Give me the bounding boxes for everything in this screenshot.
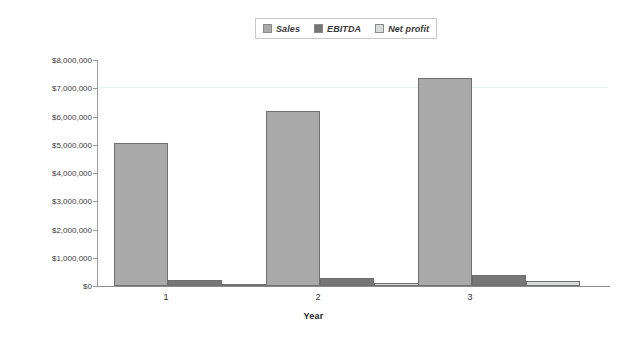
x-axis-title: Year bbox=[0, 311, 627, 321]
x-axis-tick-label: 1 bbox=[163, 292, 168, 302]
y-axis-tick-mark bbox=[93, 230, 98, 231]
bar-sales-year-3[interactable] bbox=[418, 78, 472, 286]
y-axis-tick-label: $8,000,000 bbox=[52, 56, 92, 65]
y-axis-tick-label: $1,000,000 bbox=[52, 253, 92, 262]
y-axis-tick-mark bbox=[93, 173, 98, 174]
y-axis-tick-label: $0 bbox=[83, 282, 92, 291]
bar-ebitda-year-3[interactable] bbox=[472, 275, 526, 286]
legend-swatch-icon bbox=[314, 24, 323, 33]
x-axis-line bbox=[98, 286, 610, 287]
y-axis-tick-mark bbox=[93, 88, 98, 89]
y-axis-tick-label: $3,000,000 bbox=[52, 197, 92, 206]
y-axis: $0$1,000,000$2,000,000$3,000,000$4,000,0… bbox=[0, 0, 92, 338]
bar-chart-figure: SalesEBITDANet profit $0$1,000,000$2,000… bbox=[0, 0, 627, 338]
legend-item[interactable]: Sales bbox=[263, 24, 300, 34]
y-axis-tick-label: $7,000,000 bbox=[52, 84, 92, 93]
legend-label: Sales bbox=[276, 24, 300, 34]
bar-ebitda-year-2[interactable] bbox=[320, 278, 374, 286]
y-axis-tick-mark bbox=[93, 117, 98, 118]
bar-sales-year-2[interactable] bbox=[266, 111, 320, 286]
bar-sales-year-1[interactable] bbox=[114, 143, 168, 286]
chart-legend: SalesEBITDANet profit bbox=[255, 18, 437, 39]
legend-item[interactable]: Net profit bbox=[375, 24, 429, 34]
legend-label: EBITDA bbox=[327, 24, 361, 34]
y-axis-tick-mark bbox=[93, 145, 98, 146]
y-axis-tick-mark bbox=[93, 201, 98, 202]
x-axis-tick-label: 3 bbox=[467, 292, 472, 302]
x-axis-tick-label: 2 bbox=[315, 292, 320, 302]
legend-item[interactable]: EBITDA bbox=[314, 24, 361, 34]
y-axis-tick-label: $5,000,000 bbox=[52, 140, 92, 149]
y-axis-tick-mark bbox=[93, 286, 98, 287]
y-axis-tick-mark bbox=[93, 258, 98, 259]
legend-label: Net profit bbox=[388, 24, 429, 34]
y-axis-tick-label: $2,000,000 bbox=[52, 225, 92, 234]
y-axis-tick-mark bbox=[93, 60, 98, 61]
plot-area bbox=[98, 56, 610, 286]
legend-swatch-icon bbox=[375, 24, 384, 33]
y-axis-tick-label: $6,000,000 bbox=[52, 112, 92, 121]
legend-swatch-icon bbox=[263, 24, 272, 33]
y-axis-tick-label: $4,000,000 bbox=[52, 169, 92, 178]
